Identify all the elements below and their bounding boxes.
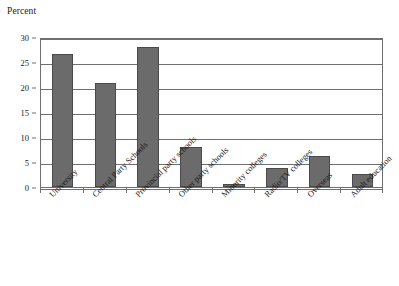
y-tick-label: 20 <box>21 84 30 93</box>
y-tick-mark <box>32 138 36 139</box>
y-tick-mark <box>32 88 36 89</box>
y-tick-mark <box>32 163 36 164</box>
y-tick-label: 0 <box>25 184 29 193</box>
y-tick-label: 10 <box>21 134 30 143</box>
y-tick-mark <box>32 63 36 64</box>
bar <box>52 54 73 187</box>
y-tick-mark <box>32 113 36 114</box>
bar <box>137 47 158 187</box>
bar-chart: Percent 051015202530 UniversityCentral P… <box>0 0 399 286</box>
x-axis-labels: UniversityCentral Party SchoolsProvincia… <box>0 192 399 286</box>
y-tick-label: 25 <box>21 59 30 68</box>
y-tick-label: 5 <box>25 159 29 168</box>
y-axis: 051015202530 <box>0 38 36 188</box>
y-tick-mark <box>32 38 36 39</box>
chart-title: Percent <box>7 5 36 17</box>
y-tick-label: 30 <box>21 34 30 43</box>
y-tick-label: 15 <box>21 109 30 118</box>
y-tick-mark <box>32 188 36 189</box>
